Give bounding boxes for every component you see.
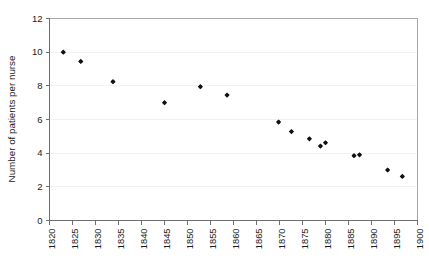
y-tick-label-8: 8 <box>37 80 42 91</box>
x-tick-label-1845: 1845 <box>162 229 172 250</box>
y-tick-label-4: 4 <box>37 147 42 158</box>
data-point-core <box>225 93 228 96</box>
data-point-core <box>386 168 389 171</box>
y-tick-label-12: 12 <box>32 13 43 24</box>
data-point-core <box>163 101 166 104</box>
y-tick-label-10: 10 <box>32 46 43 57</box>
x-tick-label-1860: 1860 <box>231 229 241 250</box>
x-tick-label-1825: 1825 <box>70 229 80 250</box>
scatter-chart: 024681012 182018251830183518401845185018… <box>0 0 429 266</box>
x-tick-label-1865: 1865 <box>254 229 264 250</box>
data-point-core <box>111 80 114 83</box>
data-points <box>61 50 405 179</box>
x-tick-label-1870: 1870 <box>277 229 287 250</box>
data-point-core <box>199 85 202 88</box>
data-point-core <box>62 50 65 53</box>
y-tick-label-0: 0 <box>37 215 42 226</box>
data-point-core <box>277 120 280 123</box>
x-tick-label-1880: 1880 <box>323 229 333 250</box>
y-axis-title: Number of patients per nurse <box>6 55 17 182</box>
data-point-core <box>352 154 355 157</box>
x-tick-label-1885: 1885 <box>346 229 356 250</box>
x-tick-label-1895: 1895 <box>392 229 402 250</box>
x-tick-label-1900: 1900 <box>415 229 425 250</box>
y-axis: 024681012 <box>32 13 50 226</box>
data-point-core <box>324 141 327 144</box>
data-point-core <box>290 130 293 133</box>
gridlines <box>50 19 418 187</box>
x-tick-label-1830: 1830 <box>93 229 103 250</box>
x-tick-label-1835: 1835 <box>116 229 126 250</box>
data-point-core <box>308 137 311 140</box>
data-point-core <box>319 144 322 147</box>
data-point-core <box>401 175 404 178</box>
x-tick-label-1890: 1890 <box>369 229 379 250</box>
data-point-core <box>79 60 82 63</box>
x-tick-label-1850: 1850 <box>185 229 195 250</box>
plot-area: 024681012 182018251830183518401845185018… <box>0 0 429 266</box>
x-tick-label-1820: 1820 <box>47 229 57 250</box>
x-tick-label-1840: 1840 <box>139 229 149 250</box>
x-tick-label-1855: 1855 <box>208 229 218 250</box>
x-tick-label-1875: 1875 <box>300 229 310 250</box>
y-tick-label-6: 6 <box>37 114 42 125</box>
data-point-core <box>358 153 361 156</box>
y-tick-label-2: 2 <box>37 181 42 192</box>
x-axis: 1820182518301835184018451850185518601865… <box>47 221 425 250</box>
